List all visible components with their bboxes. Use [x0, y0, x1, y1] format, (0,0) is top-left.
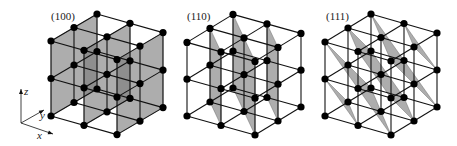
atom-node [297, 30, 304, 37]
atom-node [229, 48, 236, 55]
y-axis-label: y [39, 109, 45, 121]
atom-node [377, 71, 384, 78]
atom-node [47, 75, 54, 82]
atom-node [80, 84, 87, 91]
atom-node [387, 131, 394, 138]
atom-node [80, 122, 87, 129]
atom-node [387, 94, 394, 101]
atom-node [103, 71, 110, 78]
atom-node [400, 20, 407, 27]
atom-node [377, 34, 384, 41]
atom-node [387, 57, 394, 64]
atom-node [400, 94, 407, 101]
atom-node [240, 108, 247, 115]
atom-node [70, 99, 77, 106]
atom-node [321, 38, 328, 45]
z-axis-label: z [23, 85, 29, 97]
atom-node [159, 104, 166, 111]
atom-node [240, 71, 247, 78]
atom-node [103, 108, 110, 115]
atom-node [344, 61, 351, 68]
atom-node [344, 98, 351, 105]
atom-node [433, 103, 440, 110]
atom-node [274, 81, 281, 88]
atom-node [410, 117, 417, 124]
plane-label-110: (110) [187, 10, 211, 23]
atom-node [400, 57, 407, 64]
atom-node [126, 20, 133, 27]
atom-node [136, 118, 143, 125]
atom-node [251, 58, 258, 65]
atom-node [240, 34, 247, 41]
atom-node [354, 122, 361, 129]
atom-node [410, 43, 417, 50]
atom-node [126, 95, 133, 102]
atom-node [410, 80, 417, 87]
atom-node [159, 67, 166, 74]
atom-node [377, 108, 384, 115]
atom-node [433, 66, 440, 73]
x-axis-label: x [36, 129, 42, 141]
atom-node [136, 80, 143, 87]
atom-node [354, 48, 361, 55]
atom-node [297, 103, 304, 110]
atom-node [93, 85, 100, 92]
atom-node [251, 131, 258, 138]
plane-label-100: (100) [51, 10, 75, 23]
atom-node [113, 131, 120, 138]
atom-node [354, 85, 361, 92]
atom-node [263, 94, 270, 101]
atom-node [217, 48, 224, 55]
crystal-planes-figure: z y x (100) (110) (111) [0, 0, 457, 146]
atom-node [321, 75, 328, 82]
atom-node [263, 57, 270, 64]
atom-node [321, 112, 328, 119]
atom-node [206, 62, 213, 69]
atom-node [93, 10, 100, 17]
atom-node [70, 24, 77, 31]
atom-node [229, 84, 236, 91]
atom-node [229, 11, 236, 18]
atom-node [159, 29, 166, 36]
plane-label-111: (111) [326, 10, 349, 23]
atom-node [183, 112, 190, 119]
atom-node [367, 84, 374, 91]
atom-node [206, 98, 213, 105]
atom-node [93, 48, 100, 55]
atom-node [126, 57, 133, 64]
atom-node [47, 37, 54, 44]
atom-node [206, 25, 213, 32]
atom-node [113, 94, 120, 101]
atom-node [297, 67, 304, 74]
atom-node [183, 76, 190, 83]
atom-node [433, 29, 440, 36]
atom-node [217, 122, 224, 129]
atom-node [103, 33, 110, 40]
atom-node [251, 95, 258, 102]
atom-node [113, 56, 120, 63]
atom-node [263, 20, 270, 27]
atom-node [47, 112, 54, 119]
atom-node [367, 47, 374, 54]
atom-node [274, 44, 281, 51]
atom-node [80, 47, 87, 54]
atom-node [70, 61, 77, 68]
atom-node [367, 10, 374, 17]
atom-node [183, 39, 190, 46]
atom-node [217, 85, 224, 92]
atom-node [274, 117, 281, 124]
atom-node [136, 43, 143, 50]
atom-node [344, 24, 351, 31]
